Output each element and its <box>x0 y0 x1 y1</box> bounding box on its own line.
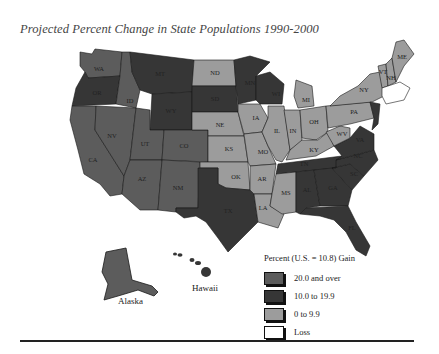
label-mt: MT <box>155 70 165 77</box>
label-ut: UT <box>141 140 150 147</box>
swatch-20-plus <box>264 272 284 285</box>
legend-item-10-19: 10.0 to 19.9 <box>264 287 355 305</box>
label-ky: KY <box>309 146 319 153</box>
alaska-label: Alaska <box>118 296 143 306</box>
label-ne: NE <box>216 121 225 128</box>
swatch-0-9 <box>264 308 284 321</box>
label-ar: AR <box>257 175 267 182</box>
label-mo: MO <box>258 148 269 155</box>
label-wy: WY <box>166 107 177 114</box>
label-tn: TN <box>300 160 309 167</box>
bottom-rule <box>20 340 414 342</box>
label-mn: MN <box>245 79 256 86</box>
us-map: WA OR CA ID NV MT WY UT CO AZ NM ND SD N… <box>0 0 439 354</box>
legend-item-20-plus: 20.0 and over <box>264 269 355 287</box>
state-az <box>122 160 162 210</box>
label-ok: OK <box>231 173 241 180</box>
label-sc: SC <box>350 170 358 177</box>
label-wi: WI <box>272 90 280 97</box>
label-co: CO <box>179 142 188 149</box>
label-wa: WA <box>94 65 104 72</box>
legend-title: Percent (U.S. = 10.8) Gain <box>264 253 355 263</box>
label-ks: KS <box>225 145 234 152</box>
label-nc: NC <box>353 152 362 159</box>
label-ca: CA <box>88 156 97 163</box>
state-wi <box>256 72 284 104</box>
hawaii-shape <box>173 253 211 278</box>
label-or: OR <box>92 89 102 96</box>
label-nm: NM <box>173 184 184 191</box>
label-in: IN <box>290 127 297 134</box>
state-wa <box>80 49 122 78</box>
label-oh: OH <box>309 118 319 125</box>
label-id: ID <box>127 97 134 104</box>
label-va: VA <box>356 136 365 143</box>
state-ny <box>330 72 384 106</box>
label-nh: NH <box>386 74 396 81</box>
label-tx: TX <box>224 207 233 214</box>
legend-label-20-plus: 20.0 and over <box>294 273 341 283</box>
label-pa: PA <box>350 108 358 115</box>
label-nd: ND <box>210 69 220 76</box>
label-mi: MI <box>302 96 310 103</box>
label-sd: SD <box>211 95 220 102</box>
state-mi <box>294 80 314 108</box>
alaska-shape <box>102 248 158 300</box>
legend-item-0-9: 0 to 9.9 <box>264 305 355 323</box>
label-nv: NV <box>107 132 117 139</box>
label-ms: MS <box>281 189 291 196</box>
swatch-loss <box>264 326 284 339</box>
legend-label-loss: Loss <box>294 327 310 337</box>
label-az: AZ <box>138 175 147 182</box>
label-ny: NY <box>359 86 369 93</box>
label-il: IL <box>274 127 280 134</box>
label-ga: GA <box>328 184 338 191</box>
state-fl <box>300 206 370 256</box>
label-me: ME <box>397 53 407 60</box>
legend-label-10-19: 10.0 to 19.9 <box>294 291 335 301</box>
label-la: LA <box>259 204 268 211</box>
label-fl: FL <box>348 224 356 231</box>
hawaii-label: Hawaii <box>192 283 218 293</box>
label-al: AL <box>303 186 312 193</box>
label-ia: IA <box>253 114 260 121</box>
swatch-10-19 <box>264 290 284 303</box>
legend-label-0-9: 0 to 9.9 <box>294 309 320 319</box>
legend-item-loss: Loss <box>264 323 355 341</box>
legend: Percent (U.S. = 10.8) Gain 20.0 and over… <box>264 253 355 341</box>
label-wv: WV <box>337 130 348 137</box>
